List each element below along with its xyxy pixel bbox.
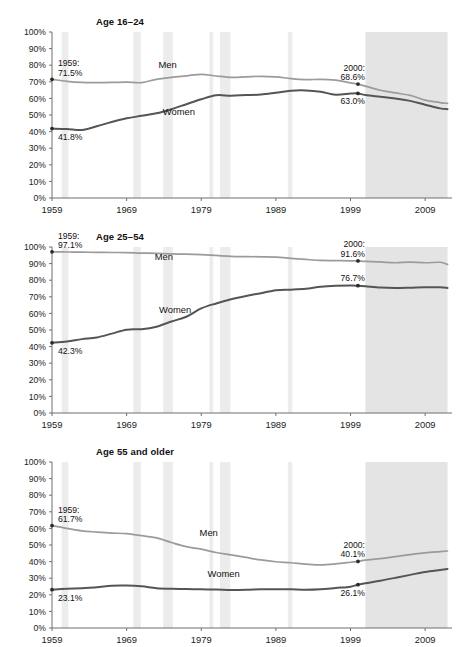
annotation-men-start-value: 61.7% [58,514,83,524]
y-axis-tick-label: 40% [29,557,47,567]
annotation-women-start-value: 41.8% [58,132,83,142]
x-axis-tick-label: 1979 [191,634,212,645]
annotation-mid-year: 2000: [343,239,365,249]
data-point-marker [50,250,54,254]
y-axis-tick-label: 70% [29,507,47,517]
y-axis-tick-label: 20% [29,590,47,600]
chart-panel-age-55-and-older: Age 55 and older 100%90%80%70%60%50%40%3… [0,442,468,647]
y-axis-tick-label: 90% [29,474,47,484]
plot-age-25-54: 100%90%80%70%60%50%40%30%20%10%0%1959196… [0,227,468,437]
x-axis-tick-label: 1989 [265,419,286,430]
y-axis-tick-label: 30% [29,358,47,368]
x-axis-tick-label: 1959 [42,204,63,215]
y-axis-tick-label: 10% [29,392,47,402]
top-partial-text [0,0,468,3]
y-axis-tick-label: 0% [34,623,47,633]
data-point-marker [356,259,360,263]
plot-age-55-and-older: 100%90%80%70%60%50%40%30%20%10%0%1959196… [0,442,468,647]
y-axis-tick-label: 80% [29,60,47,70]
y-axis-tick-label: 0% [34,193,47,203]
y-axis-tick-label: 60% [29,94,47,104]
data-point-marker [50,341,54,345]
x-axis-tick-label: 1969 [116,419,137,430]
annotation-women-mid-value: 63.0% [341,96,366,106]
annotation-men-start-value: 71.5% [58,68,83,78]
series-label-men: Men [159,59,177,70]
annotation-start-year: 1959: [58,505,80,515]
annotation-mid-year: 2000: [343,540,365,550]
series-label-men: Men [200,527,218,538]
chart-panel-age-16-24: Age 16–24 100%90%80%70%60%50%40%30%20%10… [0,12,468,222]
annotation-women-start-value: 23.1% [58,593,83,603]
y-axis-tick-label: 20% [29,160,47,170]
y-axis-tick-label: 20% [29,375,47,385]
data-point-marker [50,524,54,528]
annotation-women-mid-value: 76.7% [341,273,366,283]
chart-panel-age-25-54: Age 25–54 100%90%80%70%60%50%40%30%20%10… [0,227,468,437]
x-axis-tick-label: 2009 [415,204,436,215]
y-axis-tick-label: 100% [24,457,46,467]
annotation-mid-year: 2000: [343,63,365,73]
annotation-women-start-value: 42.3% [58,346,83,356]
data-point-marker [50,588,54,592]
series-label-men: Men [155,251,173,262]
data-point-marker [356,583,360,587]
x-axis-tick-label: 1979 [191,204,212,215]
x-axis-tick-label: 1999 [340,419,361,430]
data-point-marker [356,82,360,86]
series-label-women: Women [208,568,240,579]
x-axis-tick-label: 1959 [42,419,63,430]
annotation-start-year: 1959: [58,231,80,241]
x-axis-tick-label: 1969 [116,634,137,645]
x-axis-tick-label: 1989 [265,634,286,645]
y-axis-tick-label: 90% [29,44,47,54]
annotation-start-year: 1959: [58,58,80,68]
y-axis-tick-label: 50% [29,325,47,335]
x-axis-tick-label: 2009 [415,419,436,430]
data-point-marker [356,284,360,288]
y-axis-tick-label: 10% [29,607,47,617]
y-axis-tick-label: 30% [29,573,47,583]
annotation-men-mid-value: 68.6% [341,72,366,82]
y-axis-tick-label: 80% [29,275,47,285]
y-axis-tick-label: 40% [29,127,47,137]
series-label-women: Women [159,304,191,315]
y-axis-tick-label: 40% [29,342,47,352]
y-axis-tick-label: 50% [29,110,47,120]
x-axis-tick-label: 1959 [42,634,63,645]
data-point-marker [50,127,54,131]
y-axis-tick-label: 60% [29,309,47,319]
y-axis-tick-label: 80% [29,490,47,500]
x-axis-tick-label: 1999 [340,634,361,645]
y-axis-tick-label: 50% [29,540,47,550]
annotation-men-mid-value: 91.6% [341,249,366,259]
y-axis-tick-label: 60% [29,524,47,534]
data-point-marker [356,92,360,96]
annotation-men-mid-value: 40.1% [341,549,366,559]
y-axis-tick-label: 100% [24,242,46,252]
x-axis-tick-label: 1999 [340,204,361,215]
plot-age-16-24: 100%90%80%70%60%50%40%30%20%10%0%1959196… [0,12,468,222]
y-axis-tick-label: 30% [29,143,47,153]
annotation-men-start-value: 97.1% [58,240,83,250]
data-point-marker [50,77,54,81]
x-axis-tick-label: 1969 [116,204,137,215]
y-axis-tick-label: 70% [29,77,47,87]
data-point-marker [356,560,360,564]
y-axis-tick-label: 90% [29,259,47,269]
y-axis-tick-label: 100% [24,27,46,37]
annotation-women-mid-value: 26.1% [341,588,366,598]
y-axis-tick-label: 10% [29,177,47,187]
x-axis-tick-label: 2009 [415,634,436,645]
y-axis-tick-label: 0% [34,408,47,418]
x-axis-tick-label: 1979 [191,419,212,430]
x-axis-tick-label: 1989 [265,204,286,215]
y-axis-tick-label: 70% [29,292,47,302]
series-label-women: Women [163,106,195,117]
